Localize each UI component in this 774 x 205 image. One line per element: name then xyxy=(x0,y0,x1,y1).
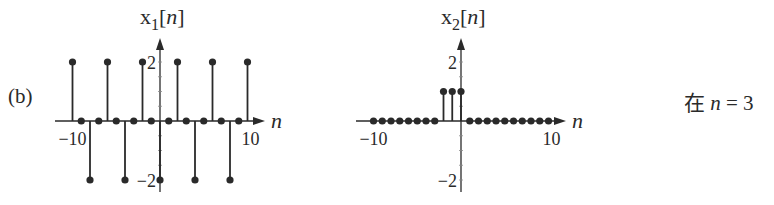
stem-marker xyxy=(466,117,473,124)
x2-plot: x2[n]n−10102−2 xyxy=(356,4,583,192)
stem-marker xyxy=(174,58,181,65)
stem-marker xyxy=(130,117,137,124)
stem-marker xyxy=(104,58,111,65)
stem-marker xyxy=(475,117,482,124)
y-axis-arrow-icon xyxy=(457,38,465,50)
x-tick-label: 10 xyxy=(242,129,260,149)
note-prefix: 在 xyxy=(684,91,705,115)
stem-marker xyxy=(484,117,491,124)
stem-marker xyxy=(370,117,377,124)
stem-marker xyxy=(165,117,172,124)
stem-marker xyxy=(148,117,155,124)
stem-marker xyxy=(235,117,242,124)
y-tick-label: 2 xyxy=(448,53,457,73)
stem-marker xyxy=(209,58,216,65)
stem-marker xyxy=(501,117,508,124)
stem-marker xyxy=(183,117,190,124)
stem-marker xyxy=(449,88,456,95)
x-axis-arrow-icon xyxy=(554,117,566,125)
note-rest: = 3 xyxy=(721,91,754,115)
stem-marker xyxy=(113,117,120,124)
stem-marker xyxy=(519,117,526,124)
x1-plot: x1[n]n−10102−2 xyxy=(55,4,282,192)
stem-marker xyxy=(200,117,207,124)
x-axis-label: n xyxy=(572,108,583,133)
stem-marker xyxy=(191,176,198,183)
stem-plots: x1[n]n−10102−2x2[n]n−10102−2 xyxy=(0,0,774,205)
stem-marker xyxy=(457,88,464,95)
plot-title: x2[n] xyxy=(441,4,486,33)
x-tick-label: 10 xyxy=(543,129,561,149)
stem-marker xyxy=(536,117,543,124)
y-axis-arrow-icon xyxy=(156,38,164,50)
stem-marker xyxy=(78,117,85,124)
stem-marker xyxy=(510,117,517,124)
x-tick-label: −10 xyxy=(359,129,387,149)
stem-marker xyxy=(545,117,552,124)
x-tick-label: −10 xyxy=(58,129,86,149)
x-axis-label: n xyxy=(271,108,282,133)
x-axis-arrow-icon xyxy=(253,117,265,125)
stem-marker xyxy=(527,117,534,124)
stem-marker xyxy=(422,117,429,124)
stem-marker xyxy=(121,176,128,183)
y-tick-label: −2 xyxy=(137,171,156,191)
y-tick-label: 2 xyxy=(147,53,156,73)
note-variable: n xyxy=(710,91,721,115)
stem-marker xyxy=(69,58,76,65)
stem-marker xyxy=(387,117,394,124)
stem-marker xyxy=(86,176,93,183)
stem-marker xyxy=(396,117,403,124)
stem-marker xyxy=(405,117,412,124)
stem-marker xyxy=(379,117,386,124)
stem-marker xyxy=(414,117,421,124)
stem-marker xyxy=(492,117,499,124)
condition-note: 在 n = 3 xyxy=(684,86,754,116)
stem-marker xyxy=(440,88,447,95)
stem-marker xyxy=(431,117,438,124)
stem-marker xyxy=(156,176,163,183)
y-tick-label: −2 xyxy=(438,171,457,191)
plot-title: x1[n] xyxy=(140,4,185,33)
stem-marker xyxy=(218,117,225,124)
stem-marker xyxy=(139,58,146,65)
stem-marker xyxy=(226,176,233,183)
stem-marker xyxy=(95,117,102,124)
stem-marker xyxy=(244,58,251,65)
